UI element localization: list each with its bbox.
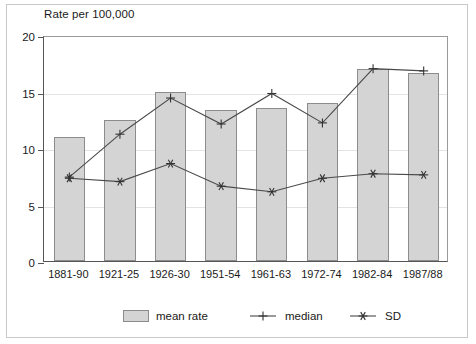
plus-marker: [166, 94, 175, 103]
legend-swatch-mean-rate: [123, 310, 149, 322]
line-series-overlay: [44, 37, 449, 263]
line-series-median: [65, 64, 428, 181]
legend-item: median: [248, 306, 323, 326]
plus-marker: [267, 89, 276, 98]
x-axis-tick-label: 1961-63: [251, 268, 291, 280]
x-axis-tick-label: 1972-74: [301, 268, 341, 280]
chart-title: Rate per 100,000: [44, 8, 134, 20]
plus-marker: [419, 66, 428, 75]
x-axis-tick-label: 1926-30: [149, 268, 189, 280]
legend-marker-star: [348, 309, 378, 323]
legend-label: SD: [385, 310, 401, 322]
legend-label: median: [285, 310, 323, 322]
y-axis-tick-label: 20: [22, 31, 35, 43]
chart-legend: mean ratemedianSD: [43, 306, 448, 328]
line-series-sd: [65, 160, 428, 196]
star-marker: [419, 171, 428, 179]
star-marker: [217, 182, 226, 190]
star-marker: [318, 174, 327, 182]
y-axis-tick-label: 10: [22, 144, 35, 156]
y-axis-tick-label: 5: [29, 201, 35, 213]
x-axis-tick-label: 1921-25: [99, 268, 139, 280]
star-marker: [166, 160, 175, 168]
x-axis-tick-label: 1881-90: [48, 268, 88, 280]
y-axis-tick: [38, 263, 44, 264]
legend-label: mean rate: [156, 310, 208, 322]
y-axis-tick-label: 15: [22, 88, 35, 100]
chart-figure: Rate per 100,000 05101520 1881-901921-25…: [0, 0, 476, 344]
plus-marker: [217, 120, 226, 129]
legend-item: SD: [348, 306, 401, 326]
x-axis-tick-label: 1987/88: [403, 268, 443, 280]
plot-area: 05101520: [43, 36, 448, 262]
legend-item: mean rate: [123, 306, 208, 326]
y-axis-tick-label: 0: [29, 257, 35, 269]
star-marker: [267, 188, 276, 196]
x-axis-tick-label: 1982-84: [352, 268, 392, 280]
x-axis-labels: 1881-901921-251926-301951-541961-631972-…: [43, 268, 448, 286]
star-marker: [115, 178, 124, 186]
x-axis-tick-label: 1951-54: [200, 268, 240, 280]
legend-marker-plus: [248, 309, 278, 323]
star-marker: [369, 170, 378, 178]
